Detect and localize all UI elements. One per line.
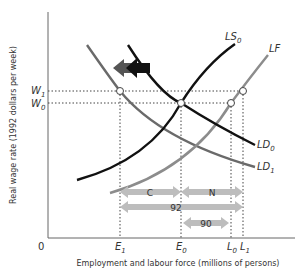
svg-text:92: 92 <box>170 203 181 213</box>
arrow-92: 92 <box>120 201 243 213</box>
y-axis-title: Real wage rate (1992 dollars per week) <box>9 46 18 204</box>
svg-text:LD1: LD1 <box>257 161 275 175</box>
shift-arrow <box>113 58 150 78</box>
svg-text:C: C <box>147 188 153 198</box>
x-tick-labels: 0 E1 E0 L0 L1 <box>38 241 250 255</box>
svg-text:LF: LF <box>269 43 281 54</box>
svg-text:LD0: LD0 <box>257 139 275 153</box>
equilibrium-points <box>117 88 247 107</box>
curve-lf <box>110 55 268 193</box>
svg-text:E1: E1 <box>115 241 126 255</box>
svg-text:LS0: LS0 <box>225 31 242 45</box>
labour-market-chart: C N 92 90 LS0 LF LD0 LD1 W1 W0 <box>0 0 302 275</box>
y-tick-labels: W1 W0 <box>31 85 46 112</box>
svg-text:90: 90 <box>200 219 212 229</box>
svg-text:W1: W1 <box>31 85 45 99</box>
guide-lines <box>48 91 243 238</box>
svg-text:0: 0 <box>38 241 44 252</box>
arrow-n: N <box>181 186 243 198</box>
x-axis-title: Employment and labour force (millions of… <box>77 259 280 268</box>
svg-text:E0: E0 <box>176 241 187 255</box>
arrow-90: 90 <box>183 217 229 229</box>
svg-text:L0: L0 <box>227 241 238 255</box>
chart-canvas: C N 92 90 LS0 LF LD0 LD1 W1 W0 <box>0 0 302 275</box>
svg-text:W0: W0 <box>31 98 46 112</box>
svg-text:L1: L1 <box>240 241 250 255</box>
svg-text:N: N <box>209 188 216 198</box>
